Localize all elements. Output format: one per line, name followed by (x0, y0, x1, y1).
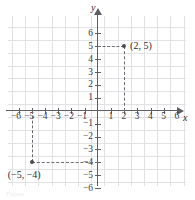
y-axis-tick (95, 188, 101, 189)
y-axis-tick (95, 72, 101, 73)
y-axis-tick-label: 3 (86, 68, 94, 78)
grid-line-vertical (78, 16, 79, 186)
grid-line-vertical (12, 16, 13, 186)
grid-line-vertical (52, 16, 53, 186)
grid-line-vertical (157, 16, 158, 186)
x-axis-tick-label: 6 (174, 112, 179, 122)
y-axis-tick-label: −3 (80, 145, 93, 155)
y-axis-label: y (91, 2, 95, 13)
y-axis-tick-label: 4 (86, 55, 94, 65)
y-axis-tick (95, 98, 101, 99)
y-axis-tick-label: 1 (86, 93, 94, 103)
y-axis-tick-label: −1 (80, 119, 93, 129)
data-point-label: (2, 5) (130, 40, 152, 51)
x-axis-tick-label: −2 (64, 112, 74, 122)
x-axis-tick-label: 3 (135, 112, 140, 122)
y-axis-tick-label: 5 (86, 42, 94, 52)
figure-caption: Figure (6, 190, 24, 198)
coordinate-plane-figure: −6−5−4−3−2−1123456654321−1−2−3−4−5−6 x y… (0, 0, 195, 200)
guide-line-vertical (32, 111, 33, 163)
x-axis-tick-label: −3 (51, 112, 61, 122)
grid-line-vertical (38, 16, 39, 186)
grid-line-vertical (104, 16, 105, 186)
grid-line-vertical (118, 16, 119, 186)
y-axis-tick (95, 175, 101, 176)
x-axis-tick-label: 4 (148, 112, 153, 122)
y-axis (97, 14, 98, 186)
x-axis-tick-label: 1 (108, 112, 113, 122)
y-axis-tick-label: −6 (80, 184, 93, 194)
grid-line-vertical (170, 16, 171, 186)
y-axis-tick (95, 33, 101, 34)
y-axis-tick (95, 59, 101, 60)
y-axis-tick (95, 137, 101, 138)
y-axis-tick-label: −2 (80, 132, 93, 142)
guide-line-vertical (124, 46, 125, 111)
x-axis-tick-label: 5 (161, 112, 166, 122)
grid-line-vertical (65, 16, 66, 186)
x-axis-tick-label: −4 (37, 112, 47, 122)
grid-line-vertical (25, 16, 26, 186)
y-axis-tick-label: −5 (80, 171, 93, 181)
x-axis-tick-label: 2 (122, 112, 127, 122)
y-axis-tick (95, 85, 101, 86)
data-point-label: (−5, −4) (8, 169, 41, 180)
guide-line-horizontal (32, 162, 98, 163)
y-axis-tick (95, 149, 101, 150)
x-axis-label: x (183, 112, 187, 123)
x-axis-tick-label: −6 (11, 112, 21, 122)
y-axis-tick (95, 124, 101, 125)
y-axis-tick-label: 6 (86, 29, 94, 39)
y-axis-tick-label: 2 (86, 80, 94, 90)
grid-line-vertical (184, 16, 185, 186)
guide-line-horizontal (98, 46, 124, 47)
x-axis-tick-label: −5 (24, 112, 34, 122)
